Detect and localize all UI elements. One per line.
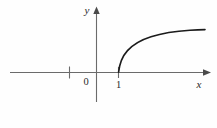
tick-label-one: 1 bbox=[116, 79, 121, 90]
figure-container: y x 0 1 bbox=[0, 0, 217, 128]
graph-canvas: y x 0 1 bbox=[0, 0, 217, 128]
x-axis-label: x bbox=[196, 78, 202, 90]
origin-label: 0 bbox=[83, 76, 88, 87]
x-axis-arrow-icon bbox=[203, 69, 211, 75]
y-axis-arrow-icon bbox=[93, 7, 99, 15]
logarithmic-curve bbox=[119, 30, 205, 73]
y-axis-label: y bbox=[84, 4, 90, 16]
